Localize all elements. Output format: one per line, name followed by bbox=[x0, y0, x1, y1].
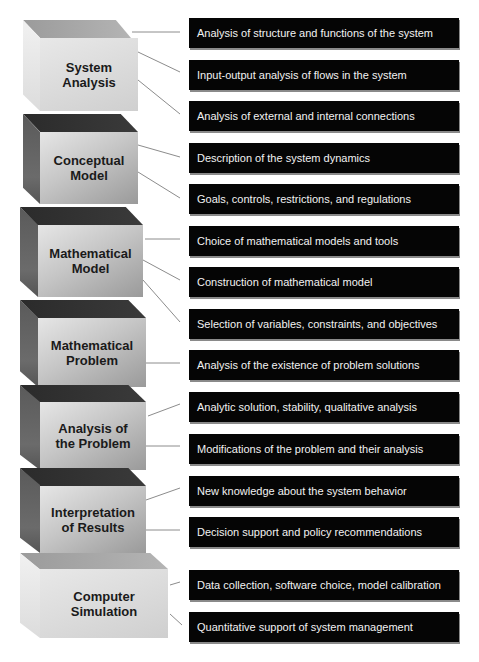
block-label: Computer Simulation bbox=[71, 589, 137, 619]
block-top-face bbox=[20, 468, 146, 486]
block-label: Conceptual Model bbox=[54, 153, 125, 183]
block-top-face bbox=[20, 300, 146, 318]
block-front-face: Interpretation of Results bbox=[40, 486, 146, 553]
block-front-face: System Analysis bbox=[40, 38, 138, 111]
block-top-face bbox=[20, 385, 146, 402]
block-label: Analysis of the Problem bbox=[55, 421, 130, 451]
block-top-face bbox=[23, 114, 138, 132]
stage-item: Construction of mathematical model bbox=[189, 267, 459, 297]
stage-item: Decision support and policy recommendati… bbox=[189, 517, 459, 547]
block-front-face: Analysis of the Problem bbox=[40, 402, 146, 470]
stage-item: Goals, controls, restrictions, and regul… bbox=[189, 184, 459, 214]
stage-item: Choice of mathematical models and tools bbox=[189, 226, 459, 256]
block-front-face: Mathematical Model bbox=[38, 225, 143, 297]
block-front-face: Conceptual Model bbox=[40, 132, 138, 204]
block-label: Interpretation of Results bbox=[51, 505, 135, 535]
stage-item: Data collection, software choice, model … bbox=[189, 570, 459, 600]
block-label: Mathematical Model bbox=[49, 246, 131, 276]
stage-item: Analytic solution, stability, qualitativ… bbox=[189, 392, 459, 422]
stage-item: Modifications of the problem and their a… bbox=[189, 434, 459, 464]
block-front-face: Mathematical Problem bbox=[38, 318, 146, 387]
stage-item: Description of the system dynamics bbox=[189, 143, 459, 173]
block-top-face bbox=[20, 553, 168, 569]
block-front-face: Computer Simulation bbox=[40, 569, 168, 638]
stage-item: New knowledge about the system behavior bbox=[189, 476, 459, 506]
block-label: Mathematical Problem bbox=[51, 338, 133, 368]
stage-item: Analysis of external and internal connec… bbox=[189, 101, 459, 131]
stage-item: Input-output analysis of flows in the sy… bbox=[189, 60, 459, 90]
stage-item: Analysis of the existence of problem sol… bbox=[189, 350, 459, 380]
stage-item: Selection of variables, constraints, and… bbox=[189, 309, 459, 339]
stage-item: Quantitative support of system managemen… bbox=[189, 612, 459, 642]
block-top-face bbox=[23, 20, 131, 38]
modeling-stages-diagram: System Analysis Conceptual Model Mathema… bbox=[0, 0, 479, 662]
block-top-face bbox=[20, 207, 143, 225]
stage-item: Analysis of structure and functions of t… bbox=[189, 18, 459, 48]
block-label: System Analysis bbox=[62, 60, 115, 90]
